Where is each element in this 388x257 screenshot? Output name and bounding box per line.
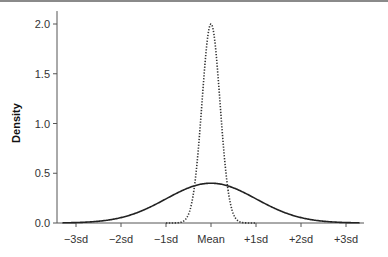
y-tick-label: 0.0 [35, 217, 50, 229]
x-tick-label: −1sd [154, 233, 178, 245]
narrow-normal-curve [166, 24, 256, 223]
x-tick-label: +1sd [244, 233, 268, 245]
density-chart: 0.00.51.01.52.0−3sd−2sd−1sdMean+1sd+2sd+… [0, 0, 388, 257]
y-tick-label: 1.0 [35, 118, 50, 130]
x-tick-label: +3sd [334, 233, 358, 245]
y-tick-label: 0.5 [35, 167, 50, 179]
x-tick-label: Mean [197, 233, 225, 245]
y-axis-label: Density [10, 102, 22, 143]
y-tick-label: 1.5 [35, 68, 50, 80]
x-tick-label: −3sd [64, 233, 88, 245]
x-tick-label: +2sd [289, 233, 313, 245]
x-tick-label: −2sd [109, 233, 133, 245]
y-tick-label: 2.0 [35, 18, 50, 30]
wide-normal-curve [63, 183, 360, 223]
